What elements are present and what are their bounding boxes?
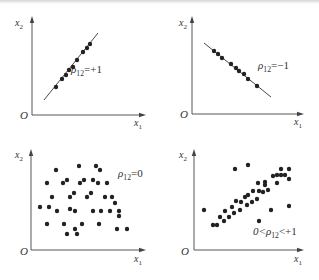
data-point xyxy=(62,222,66,226)
data-point xyxy=(98,168,102,172)
data-point xyxy=(110,195,114,199)
data-point xyxy=(269,208,273,212)
data-point xyxy=(238,208,242,212)
x1-axis-label: x1 xyxy=(133,253,142,267)
data-point xyxy=(72,191,76,195)
data-point xyxy=(115,227,119,231)
data-point xyxy=(45,222,49,226)
data-point xyxy=(91,209,95,213)
x-axis-arrow-icon xyxy=(139,113,146,117)
data-point xyxy=(68,207,72,211)
data-point xyxy=(275,181,279,185)
data-point xyxy=(82,178,86,182)
data-point xyxy=(256,181,260,185)
data-point xyxy=(202,208,206,212)
data-point xyxy=(75,232,79,236)
x2-axis-label: x2 xyxy=(14,17,23,31)
data-point xyxy=(218,215,222,219)
data-point xyxy=(80,222,84,226)
data-point xyxy=(47,205,51,209)
panel-perfect-positive: Ox1x2ρ12=+1 xyxy=(14,16,146,131)
data-point xyxy=(97,222,101,226)
data-point xyxy=(78,181,82,185)
data-point xyxy=(117,209,121,213)
data-point xyxy=(279,167,283,171)
data-point xyxy=(250,200,254,204)
data-point xyxy=(113,201,117,205)
data-point xyxy=(287,204,291,208)
data-point xyxy=(230,205,234,209)
data-point xyxy=(99,209,103,213)
data-point xyxy=(223,209,227,213)
data-point xyxy=(245,203,249,207)
x-axis-arrow-icon xyxy=(297,248,304,252)
data-point xyxy=(38,205,42,209)
data-point xyxy=(261,190,265,194)
data-point xyxy=(85,195,89,199)
x1-axis-label: x1 xyxy=(293,116,302,130)
data-point xyxy=(215,223,219,227)
x2-axis-label: x2 xyxy=(14,149,23,163)
data-point xyxy=(246,193,250,197)
data-point xyxy=(237,69,241,73)
data-point xyxy=(211,223,215,227)
data-point xyxy=(89,191,93,195)
origin-label: O xyxy=(20,109,28,121)
x-axis-arrow-icon xyxy=(139,248,146,252)
data-point xyxy=(60,77,64,81)
data-point xyxy=(222,219,226,223)
data-point xyxy=(94,164,98,168)
data-point xyxy=(73,227,77,231)
data-point xyxy=(85,46,89,50)
x1-axis-label: x1 xyxy=(133,117,142,131)
data-point xyxy=(75,58,79,62)
x2-axis-label: x2 xyxy=(178,17,187,31)
data-point xyxy=(279,173,283,177)
data-point xyxy=(103,195,107,199)
data-point xyxy=(108,209,112,213)
correlation-annotation: ρ12=+1 xyxy=(70,63,102,78)
panel-partial-positive: Ox1x20<ρ12<+1 xyxy=(178,149,304,267)
data-point xyxy=(271,174,275,178)
data-point xyxy=(96,181,100,185)
data-point xyxy=(255,84,259,88)
data-point xyxy=(77,164,81,168)
data-point xyxy=(54,168,58,172)
data-point xyxy=(220,56,224,60)
data-point xyxy=(263,183,267,187)
y-axis-arrow-icon xyxy=(192,149,196,156)
y-axis-arrow-icon xyxy=(190,16,194,23)
data-point xyxy=(125,227,129,231)
data-point xyxy=(88,42,92,46)
data-point xyxy=(65,178,69,182)
data-point xyxy=(234,199,238,203)
data-point xyxy=(50,195,54,199)
data-point xyxy=(287,177,291,181)
data-point xyxy=(61,181,65,185)
correlation-annotation: ρ12=−1 xyxy=(257,59,289,74)
data-point xyxy=(275,173,279,177)
data-point xyxy=(65,232,69,236)
data-point xyxy=(287,167,291,171)
data-point xyxy=(233,167,237,171)
origin-label: O xyxy=(181,245,189,257)
data-point xyxy=(246,77,250,81)
data-point xyxy=(91,178,95,182)
origin-label: O xyxy=(20,245,28,257)
correlation-annotation: ρ12=0 xyxy=(117,167,143,182)
data-point xyxy=(212,49,216,53)
panel-no-correlation: Ox1x2ρ12=0 xyxy=(14,149,146,267)
data-point xyxy=(242,72,246,76)
data-point xyxy=(81,50,85,54)
data-point xyxy=(283,173,287,177)
panel-perfect-negative: Ox1x2ρ12=−1 xyxy=(178,16,304,130)
data-point xyxy=(232,211,236,215)
data-point xyxy=(227,215,231,219)
data-point xyxy=(229,62,233,66)
x2-axis-label: x2 xyxy=(178,149,187,163)
data-point xyxy=(68,195,72,199)
data-point xyxy=(45,181,49,185)
data-point xyxy=(54,85,58,89)
data-point xyxy=(246,163,250,167)
data-point xyxy=(73,209,77,213)
